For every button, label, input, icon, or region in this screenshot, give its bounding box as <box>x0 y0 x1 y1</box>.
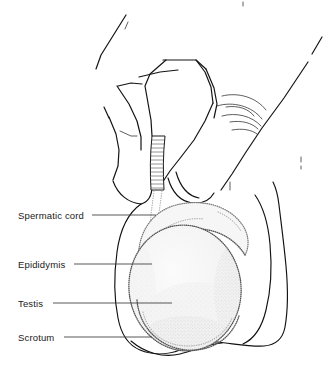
label-testis-text: Testis <box>18 298 43 309</box>
label-epididymis-text: Epididymis <box>18 259 66 270</box>
anatomy-illustration: Spermatic cord Epididymis Testis Scrotum <box>0 0 335 374</box>
label-spermatic-cord-text: Spermatic cord <box>18 210 84 221</box>
figure-container: Spermatic cord Epididymis Testis Scrotum <box>0 0 335 374</box>
label-scrotum-text: Scrotum <box>18 332 54 343</box>
